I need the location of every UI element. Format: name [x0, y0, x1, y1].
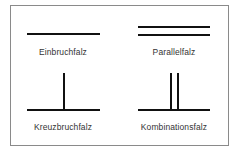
parallelfalz-label: Parallelfalz: [124, 47, 224, 57]
einbruchfalz-label: Einbruchfalz: [13, 47, 113, 57]
kreuzbruchfalz-label: Kreuzbruchfalz: [13, 122, 113, 132]
fold-line-horizontal: [138, 109, 210, 111]
kombinationsfalz-label: Kombinationsfalz: [124, 122, 224, 132]
fold-line-vertical-left: [170, 73, 172, 110]
fold-line-horizontal: [27, 33, 100, 35]
fold-line-vertical-right: [177, 73, 179, 110]
fold-line-horizontal-bottom: [138, 34, 210, 36]
fold-line-horizontal-top: [138, 26, 210, 28]
fold-line-vertical: [63, 73, 65, 110]
